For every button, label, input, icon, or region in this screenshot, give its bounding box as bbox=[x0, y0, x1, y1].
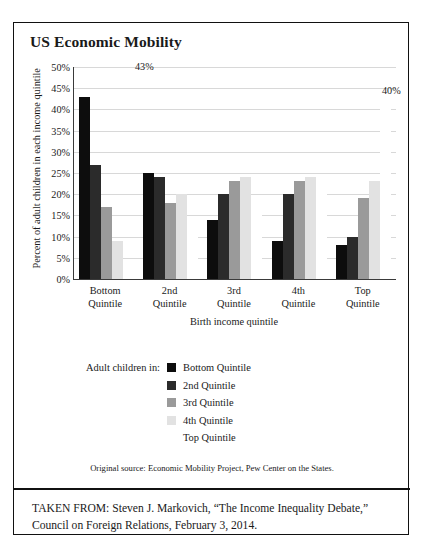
x-axis-ticks: BottomQuintile2ndQuintile3rdQuintile4thQ… bbox=[73, 285, 395, 310]
bar bbox=[123, 262, 134, 279]
taken-from-caption: TAKEN FROM: Steven J. Markovich, “The In… bbox=[32, 500, 394, 534]
y-axis-tick-label: 20% bbox=[32, 189, 70, 200]
bar bbox=[272, 241, 283, 279]
x-axis-tick-label: BottomQuintile bbox=[74, 285, 136, 310]
legend-item-label: 3rd Quintile bbox=[183, 397, 234, 408]
chart-plot-area: Percent of adult children in each income… bbox=[14, 63, 410, 353]
y-axis-ticks: 0%5%10%15%20%25%30%35%40%45%50% bbox=[32, 63, 70, 323]
divider bbox=[14, 488, 410, 490]
legend-item-label: 4th Quintile bbox=[183, 415, 233, 426]
legend-item[interactable]: Top Quintile bbox=[14, 429, 410, 447]
plot-frame: 43% 40% bbox=[73, 67, 396, 280]
bar bbox=[79, 97, 90, 279]
bar bbox=[305, 177, 316, 279]
bar bbox=[101, 207, 112, 279]
chart-legend: Adult children in:Bottom Quintile2nd Qui… bbox=[14, 359, 410, 447]
bar-group bbox=[143, 67, 198, 279]
legend-swatch-icon bbox=[167, 433, 176, 442]
bar bbox=[112, 241, 123, 279]
y-axis-tick-label: 45% bbox=[32, 83, 70, 94]
bar-group bbox=[336, 67, 391, 279]
taken-from-line-1: TAKEN FROM: Steven J. Markovich, “The In… bbox=[32, 502, 368, 515]
y-axis-tick-label: 10% bbox=[32, 231, 70, 242]
bar bbox=[176, 194, 187, 279]
legend-item[interactable]: 3rd Quintile bbox=[14, 394, 410, 412]
y-axis-tick-label: 30% bbox=[32, 146, 70, 157]
x-axis-title: Birth income quintile bbox=[73, 316, 395, 327]
bar bbox=[336, 245, 347, 279]
bar bbox=[207, 220, 218, 279]
legend-swatch-icon bbox=[167, 416, 176, 425]
legend-item[interactable]: 4th Quintile bbox=[14, 412, 410, 430]
legend-lead-label: Adult children in: bbox=[14, 362, 167, 373]
y-axis-tick-label: 25% bbox=[32, 168, 70, 179]
data-label-top-peak: 40% bbox=[382, 85, 401, 96]
y-axis-tick-label: 40% bbox=[32, 104, 70, 115]
bar bbox=[358, 198, 369, 279]
bar bbox=[187, 224, 198, 279]
legend-item-label: Top Quintile bbox=[183, 432, 236, 443]
x-axis-tick-label: 2ndQuintile bbox=[139, 285, 201, 310]
bar bbox=[316, 177, 327, 279]
y-axis-tick-label: 15% bbox=[32, 210, 70, 221]
bar bbox=[90, 165, 101, 279]
page-title: US Economic Mobility bbox=[30, 33, 182, 51]
bar bbox=[143, 173, 154, 279]
legend-item-label: Bottom Quintile bbox=[183, 362, 251, 373]
bar bbox=[347, 237, 358, 279]
bar bbox=[380, 109, 391, 279]
bar bbox=[283, 194, 294, 279]
x-axis-tick-label: 3rdQuintile bbox=[203, 285, 265, 310]
data-label-bottom-peak: 43% bbox=[135, 61, 154, 72]
bar-group bbox=[272, 67, 327, 279]
bar bbox=[369, 181, 380, 279]
bar bbox=[154, 177, 165, 279]
legend-item-label: 2nd Quintile bbox=[183, 380, 235, 391]
legend-swatch-icon bbox=[167, 398, 176, 407]
bar bbox=[251, 198, 262, 279]
x-axis-tick-label: TopQuintile bbox=[332, 285, 394, 310]
bar-series-container bbox=[74, 67, 396, 279]
bar bbox=[240, 177, 251, 279]
legend-swatch-icon bbox=[167, 363, 176, 372]
bar-group bbox=[207, 67, 262, 279]
x-axis-tick-label: 4thQuintile bbox=[267, 285, 329, 310]
taken-from-line-2: Council on Foreign Relations, February 3… bbox=[32, 519, 257, 532]
bar bbox=[165, 203, 176, 279]
bar-group bbox=[79, 67, 134, 279]
bar bbox=[294, 181, 305, 279]
source-note: Original source: Economic Mobility Proje… bbox=[14, 463, 410, 473]
y-axis-tick-label: 0% bbox=[32, 274, 70, 285]
y-axis-tick-label: 5% bbox=[32, 252, 70, 263]
y-axis-tick-label: 50% bbox=[32, 62, 70, 73]
legend-item[interactable]: 2nd Quintile bbox=[14, 377, 410, 395]
bar bbox=[229, 181, 240, 279]
bar bbox=[218, 194, 229, 279]
figure-panel: US Economic Mobility Percent of adult ch… bbox=[13, 22, 409, 535]
legend-swatch-icon bbox=[167, 381, 176, 390]
y-axis-tick-label: 35% bbox=[32, 125, 70, 136]
legend-item[interactable]: Adult children in:Bottom Quintile bbox=[14, 359, 410, 377]
